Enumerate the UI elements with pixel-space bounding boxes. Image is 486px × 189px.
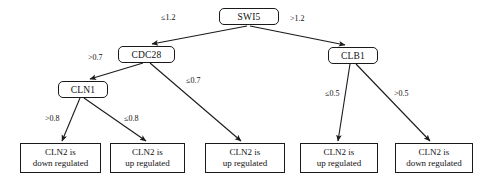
edge-label-cln1-right: ≤0.8: [124, 114, 138, 123]
edge-swi5-clb1: [250, 26, 345, 45]
edge-clb1-leaf5: [356, 64, 430, 141]
leaf-node-2[interactable]: CLN2 is up regulated: [110, 143, 185, 173]
node-cdc28[interactable]: CDC28: [118, 46, 175, 63]
edge-clb1-leaf4: [338, 64, 350, 141]
node-clb1-label: CLB1: [341, 51, 365, 61]
node-clb1[interactable]: CLB1: [328, 47, 378, 64]
edge-label-swi5-left: ≤1.2: [161, 13, 175, 22]
node-swi5-label: SWI5: [238, 12, 261, 22]
decision-tree-diagram: SWI5 CDC28 CLB1 CLN1 CLN2 is down regula…: [0, 0, 486, 189]
edge-label-swi5-right: >1.2: [290, 14, 305, 23]
node-swi5[interactable]: SWI5: [219, 8, 279, 25]
edge-label-clb1-left: ≤0.5: [325, 89, 339, 98]
node-cln1-label: CLN1: [71, 85, 96, 95]
edge-swi5-cdc28: [152, 26, 247, 44]
leaf-node-4-label: CLN2 is up regulated: [317, 147, 362, 170]
edge-label-clb1-right: >0.5: [394, 89, 409, 98]
node-cln1[interactable]: CLN1: [58, 81, 108, 98]
node-cdc28-label: CDC28: [131, 50, 161, 60]
edge-cln1-leaf1: [62, 98, 80, 141]
edge-label-cdc28-right: ≤0.7: [186, 76, 200, 85]
edge-cdc28-cln1: [90, 63, 143, 79]
edge-cdc28-leaf3: [150, 63, 241, 141]
leaf-node-1[interactable]: CLN2 is down regulated: [20, 143, 101, 173]
leaf-node-4[interactable]: CLN2 is up regulated: [300, 143, 378, 173]
leaf-node-5[interactable]: CLN2 is down regulated: [395, 143, 473, 173]
leaf-node-3[interactable]: CLN2 is up regulated: [205, 143, 285, 173]
leaf-node-1-label: CLN2 is down regulated: [33, 147, 89, 170]
edge-label-cln1-left: >0.8: [45, 114, 60, 123]
leaf-node-3-label: CLN2 is up regulated: [223, 147, 268, 170]
edge-label-cdc28-left: >0.7: [88, 53, 103, 62]
leaf-node-5-label: CLN2 is down regulated: [406, 147, 462, 170]
leaf-node-2-label: CLN2 is up regulated: [125, 147, 170, 170]
